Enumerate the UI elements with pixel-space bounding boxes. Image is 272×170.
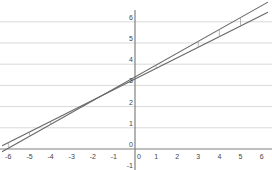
x-tick-label: -5: [26, 153, 32, 160]
x-tick-label: 0: [137, 153, 141, 160]
x-tick-label: -3: [69, 153, 75, 160]
y-tick-label: 2: [129, 99, 133, 106]
y-tick-label: 1: [129, 120, 133, 127]
axes: [0, 10, 272, 170]
y-tick-label: 0: [129, 141, 133, 148]
x-tick-label: 3: [196, 153, 200, 160]
x-tick-label: 4: [217, 153, 221, 160]
gridlines: [0, 22, 272, 128]
y-tick-label: 5: [129, 35, 133, 42]
x-tick-label: 6: [260, 153, 264, 160]
x-tick-label: 5: [239, 153, 243, 160]
y-tick-labels: -10123456: [127, 14, 133, 169]
x-tick-label: 2: [175, 153, 179, 160]
y-tick-label: 4: [129, 56, 133, 63]
y-tick-label: -1: [127, 162, 133, 169]
chart: -6-5-4-3-2-10123456 -10123456: [0, 0, 272, 170]
x-tick-label: -1: [111, 153, 117, 160]
x-tick-label: -2: [90, 153, 96, 160]
y-tick-label: 6: [129, 14, 133, 21]
y-tick-label: 3: [129, 77, 133, 84]
x-tick-label: -6: [5, 153, 11, 160]
x-tick-label: -4: [47, 153, 53, 160]
x-tick-label: 1: [154, 153, 158, 160]
